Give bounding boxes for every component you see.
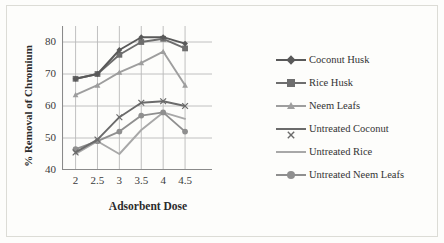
marker-circle [138, 113, 144, 119]
legend-label: Untreated Rice [309, 146, 372, 158]
legend-item-untreated-neem-leafs[interactable]: Untreated Neem Leafs [276, 163, 434, 186]
plot-area [62, 26, 212, 170]
legend-marker-square-icon [276, 76, 306, 90]
legend-label: Untreated Neem Leafs [309, 169, 404, 181]
line-chart-svg [62, 26, 212, 170]
y-tick-label: 50 [30, 131, 56, 143]
legend-label: Neem Leafs [309, 100, 360, 112]
series-line [76, 112, 185, 154]
legend-marker-diamond-icon [276, 53, 306, 67]
series-line [76, 37, 185, 79]
legend-item-rice-husk[interactable]: Rice Husk [276, 71, 434, 94]
legend-item-untreated-rice[interactable]: Untreated Rice [276, 140, 434, 163]
chart-legend: Coconut HuskRice HuskNeem LeafsUntreated… [276, 48, 434, 186]
series-line [76, 52, 185, 95]
y-tick-label: 60 [30, 99, 56, 111]
legend-marker-cross-icon [276, 122, 306, 136]
chart-figure: % Removal of Chromium Adsorbent Dose 807… [0, 0, 444, 243]
legend-item-neem-leafs[interactable]: Neem Leafs [276, 94, 434, 117]
legend-label: Untreated Coconut [309, 123, 389, 135]
legend-label: Coconut Husk [309, 54, 369, 66]
y-tick-label: 70 [30, 67, 56, 79]
marker-triangle [160, 49, 166, 54]
legend-item-coconut-husk[interactable]: Coconut Husk [276, 48, 434, 71]
x-axis-title: Adsorbent Dose [58, 200, 238, 212]
x-tick-label: 4.5 [170, 174, 200, 186]
marker-circle [160, 110, 166, 116]
marker-circle [116, 129, 122, 135]
y-tick-label: 40 [30, 163, 56, 175]
y-tick-label: 80 [30, 35, 56, 47]
legend-item-untreated-coconut[interactable]: Untreated Coconut [276, 117, 434, 140]
marker-circle [182, 129, 188, 135]
legend-marker-triangle-icon [276, 99, 306, 113]
legend-marker-circle-icon [276, 168, 306, 182]
legend-label: Rice Husk [309, 77, 353, 89]
legend-marker-none-icon [276, 145, 306, 159]
